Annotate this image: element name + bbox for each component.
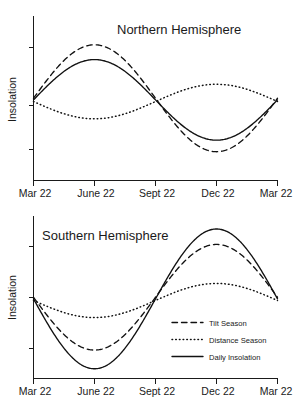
- south-x-label-0: Mar 22: [19, 385, 52, 397]
- south-daily-insolation-curve: [34, 229, 278, 369]
- southern-hemisphere-title: Southern Hemisphere: [42, 228, 168, 243]
- southern-hemisphere-panel: Southern Hemisphere Insolation Tilt Seas…: [0, 202, 301, 404]
- south-y-axis-label: Insolation: [6, 275, 18, 320]
- south-distance-season-curve: [34, 283, 278, 317]
- north-daily-insolation-curve: [34, 60, 278, 141]
- north-x-label-4: Mar 22: [260, 187, 293, 199]
- northern-hemisphere-title: Northern Hemisphere: [117, 22, 241, 37]
- legend-label-distance-season: Distance Season: [209, 336, 266, 345]
- south-x-label-3: Dec 22: [201, 385, 234, 397]
- north-tilt-season-curve: [34, 45, 278, 152]
- south-curves: [34, 229, 278, 369]
- south-x-label-1: June 22: [77, 385, 115, 397]
- north-curves: [34, 45, 278, 152]
- south-x-label-4: Mar 22: [260, 385, 293, 397]
- insolation-figure: Northern Hemisphere Insolation Mar 22 Ju…: [0, 0, 301, 404]
- south-x-label-2: Sept 22: [139, 385, 175, 397]
- north-x-label-1: June 22: [77, 187, 115, 199]
- north-x-label-2: Sept 22: [139, 187, 175, 199]
- north-x-label-3: Dec 22: [201, 187, 234, 199]
- legend-label-tilt-season: Tilt Season: [209, 319, 247, 328]
- north-x-label-0: Mar 22: [19, 187, 52, 199]
- north-y-axis-label: Insolation: [6, 77, 18, 122]
- legend: Tilt Season Distance Season Daily Insola…: [172, 319, 266, 362]
- northern-hemisphere-panel: Northern Hemisphere Insolation Mar 22 Ju…: [0, 0, 301, 202]
- legend-label-daily-insolation: Daily Insolation: [209, 353, 261, 362]
- north-axes: [29, 16, 278, 186]
- south-tilt-season-curve: [34, 244, 278, 350]
- north-distance-season-curve: [34, 84, 278, 119]
